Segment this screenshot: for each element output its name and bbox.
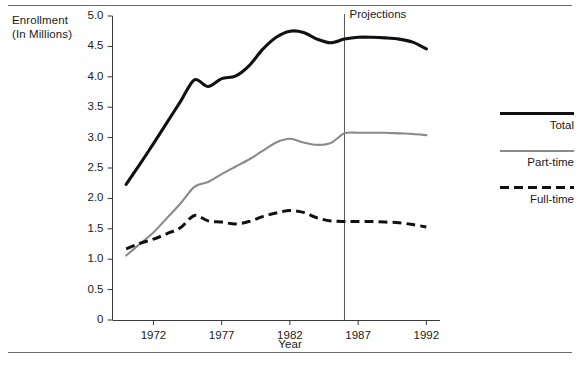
y-tick-label: 4.5 <box>70 39 104 51</box>
legend-label-full-time: Full-time <box>500 192 574 205</box>
y-tick-label: 3.5 <box>70 100 104 112</box>
legend-label-part-time: Part-time <box>500 155 574 168</box>
legend-swatch-part-time <box>500 145 574 155</box>
legend-entry-total: Total <box>500 108 574 131</box>
y-tick-label: 2.0 <box>70 191 104 203</box>
y-tick-label: 1.0 <box>70 252 104 264</box>
x-tick-label: 1992 <box>401 329 451 341</box>
chart-legend: Total Part-time Full-time <box>500 108 574 219</box>
y-tick-label: 3.0 <box>70 131 104 143</box>
legend-label-total: Total <box>500 118 574 131</box>
y-tick-label: 0.5 <box>70 283 104 295</box>
y-tick-label: 2.5 <box>70 161 104 173</box>
y-tick-label: 4.0 <box>70 70 104 82</box>
data-series-group <box>126 31 426 256</box>
legend-swatch-total <box>500 108 574 118</box>
y-tick-label: 5.0 <box>70 9 104 21</box>
legend-entry-full-time: Full-time <box>500 182 574 205</box>
x-tick-label: 1982 <box>265 329 315 341</box>
series-line-full-time <box>126 211 426 249</box>
series-line-total <box>126 31 426 185</box>
x-tick-label: 1987 <box>333 329 383 341</box>
plot-canvas <box>0 0 580 365</box>
y-tick-label: 0 <box>70 313 104 325</box>
enrollment-line-chart <box>0 0 580 365</box>
legend-swatch-full-time <box>500 182 574 192</box>
series-line-part-time <box>126 132 426 255</box>
x-tick-label: 1977 <box>197 329 247 341</box>
y-tick-label: 1.5 <box>70 222 104 234</box>
y-axis-ticks <box>108 16 113 320</box>
legend-entry-part-time: Part-time <box>500 145 574 168</box>
x-tick-label: 1972 <box>128 329 178 341</box>
